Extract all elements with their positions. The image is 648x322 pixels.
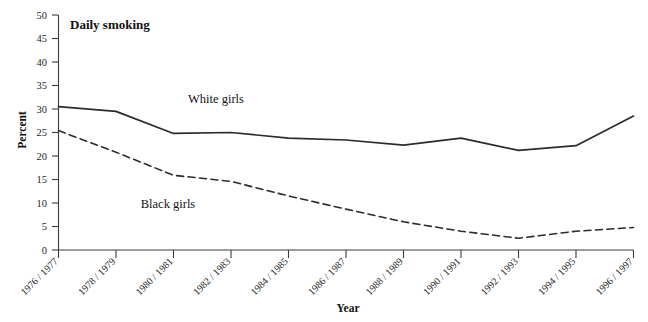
y-tick-label: 0: [42, 245, 47, 256]
series-line-white-girls: [59, 107, 634, 151]
x-tick-label: 1994 / 1995: [536, 256, 578, 298]
y-tick-label: 50: [37, 10, 48, 21]
data-series-group: [59, 107, 634, 239]
y-axis-ticks: [52, 15, 59, 250]
x-axis-ticks: [59, 250, 634, 258]
chart-container: 05101520253035404550 1976 / 19771978 / 1…: [0, 0, 648, 322]
series-annotations: White girlsBlack girls: [141, 92, 244, 211]
chart-title: Daily smoking: [70, 17, 150, 32]
x-tick-label: 1986 / 1987: [306, 256, 348, 298]
y-tick-label: 45: [37, 33, 48, 44]
y-tick-label: 35: [37, 80, 48, 91]
y-tick-label: 30: [37, 104, 48, 115]
series-line-black-girls: [59, 131, 634, 239]
series-annotation: White girls: [188, 92, 244, 106]
y-tick-label: 40: [37, 57, 48, 68]
x-tick-label: 1980 / 1981: [133, 256, 175, 298]
x-tick-label: 1990 / 1991: [421, 256, 463, 298]
y-tick-label: 25: [37, 127, 48, 138]
y-tick-label: 10: [37, 198, 48, 209]
x-tick-label: 1982 / 1983: [191, 256, 233, 298]
y-axis-tick-labels: 05101520253035404550: [37, 10, 48, 256]
line-chart: 05101520253035404550 1976 / 19771978 / 1…: [0, 0, 648, 322]
x-axis-title: Year: [337, 302, 360, 314]
y-axis-title: Percent: [16, 111, 28, 149]
series-annotation: Black girls: [141, 197, 196, 211]
x-axis-tick-labels: 1976 / 19771978 / 19791980 / 19811982 / …: [18, 256, 635, 298]
x-tick-label: 1992 / 1993: [478, 256, 520, 298]
x-tick-label: 1984 / 1985: [248, 256, 290, 298]
y-tick-label: 15: [37, 174, 48, 185]
y-tick-label: 20: [37, 151, 48, 162]
x-tick-label: 1976 / 1977: [18, 256, 60, 298]
x-tick-label: 1978 / 1979: [76, 256, 118, 298]
x-tick-label: 1996 / 1997: [593, 256, 635, 298]
x-tick-label: 1988 / 1989: [363, 256, 405, 298]
y-tick-label: 5: [42, 221, 47, 232]
